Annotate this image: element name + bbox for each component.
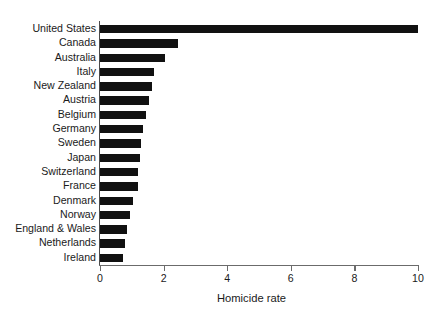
homicide-rate-bar-chart: United StatesCanadaAustraliaItalyNew Zea… bbox=[0, 0, 447, 317]
x-axis-title: Homicide rate bbox=[0, 292, 447, 304]
bar-row bbox=[100, 179, 418, 193]
bar bbox=[100, 125, 143, 133]
bar bbox=[100, 96, 149, 104]
category-label: Japan bbox=[3, 152, 96, 163]
category-label: Austria bbox=[3, 94, 96, 105]
bar-row bbox=[100, 65, 418, 79]
category-label: New Zealand bbox=[3, 80, 96, 91]
bar bbox=[100, 68, 154, 76]
bar-row bbox=[100, 251, 418, 265]
category-label: Ireland bbox=[3, 252, 96, 263]
x-tick-label: 0 bbox=[97, 272, 103, 284]
bar-row bbox=[100, 222, 418, 236]
bar bbox=[100, 82, 152, 90]
bar-row bbox=[100, 151, 418, 165]
bar bbox=[100, 139, 141, 147]
category-label: Italy bbox=[3, 66, 96, 77]
bar bbox=[100, 39, 178, 47]
bar-row bbox=[100, 79, 418, 93]
x-tick-mark bbox=[418, 266, 419, 271]
bar-row bbox=[100, 51, 418, 65]
bar bbox=[100, 254, 123, 262]
category-label: France bbox=[3, 180, 96, 191]
x-tick-label: 4 bbox=[224, 272, 230, 284]
x-tick-label: 8 bbox=[351, 272, 357, 284]
plot-area bbox=[100, 22, 418, 265]
bar-row bbox=[100, 194, 418, 208]
category-label: Netherlands bbox=[3, 237, 96, 248]
category-label: Denmark bbox=[3, 195, 96, 206]
bar bbox=[100, 168, 138, 176]
bar bbox=[100, 25, 418, 33]
bar bbox=[100, 197, 133, 205]
category-axis-labels: United StatesCanadaAustraliaItalyNew Zea… bbox=[0, 22, 96, 265]
category-label: Belgium bbox=[3, 109, 96, 120]
category-label: Germany bbox=[3, 123, 96, 134]
bar-row bbox=[100, 136, 418, 150]
category-label: Canada bbox=[3, 37, 96, 48]
bar bbox=[100, 111, 146, 119]
x-tick-mark bbox=[354, 266, 355, 271]
bar bbox=[100, 182, 138, 190]
bar-row bbox=[100, 36, 418, 50]
x-tick-mark bbox=[227, 266, 228, 271]
x-tick-mark bbox=[100, 266, 101, 271]
bar bbox=[100, 154, 140, 162]
bar-row bbox=[100, 165, 418, 179]
x-axis-ticks: 0246810 bbox=[100, 266, 418, 288]
x-tick-label: 2 bbox=[161, 272, 167, 284]
bar bbox=[100, 54, 165, 62]
bar-row bbox=[100, 208, 418, 222]
bar-row bbox=[100, 236, 418, 250]
category-label: Sweden bbox=[3, 137, 96, 148]
bar-row bbox=[100, 108, 418, 122]
bar-row bbox=[100, 122, 418, 136]
x-tick-label: 10 bbox=[412, 272, 424, 284]
bar bbox=[100, 225, 127, 233]
x-tick-label: 6 bbox=[288, 272, 294, 284]
category-label: England & Wales bbox=[3, 223, 96, 234]
category-label: United States bbox=[3, 23, 96, 34]
bar bbox=[100, 211, 130, 219]
bar bbox=[100, 239, 125, 247]
x-tick-mark bbox=[291, 266, 292, 271]
category-label: Australia bbox=[3, 52, 96, 63]
x-tick-mark bbox=[164, 266, 165, 271]
bar-row bbox=[100, 22, 418, 36]
category-label: Switzerland bbox=[3, 166, 96, 177]
bar-row bbox=[100, 93, 418, 107]
category-label: Norway bbox=[3, 209, 96, 220]
